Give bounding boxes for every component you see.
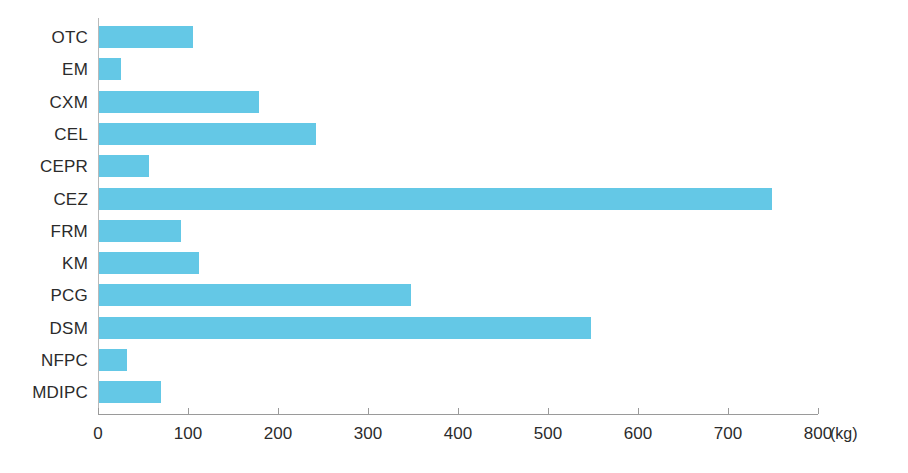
category-label-text: OTC [0,27,88,49]
x-axis-unit-label: (kg) [830,424,858,444]
x-tick-200 [278,408,279,414]
bar-cepr [99,155,149,177]
bar-nfpc [99,349,127,371]
x-tick-label-200: 200 [264,424,292,444]
bar-chart: OTCEMCXMCELCEPRCEZFRMKMPCGDSMNFPCMDIPC01… [0,0,908,473]
bar-cez [99,188,772,210]
x-tick-label-100: 100 [174,424,202,444]
category-label-text: EM [0,59,88,81]
category-label-text: KM [0,253,88,275]
x-tick-100 [188,408,189,414]
category-label-text: NFPC [0,350,88,372]
x-tick-label-300: 300 [354,424,382,444]
x-tick-label-700: 700 [714,424,742,444]
category-label-cxm: CXM [0,92,88,114]
bar-dsm [99,317,591,339]
category-label-cez: CEZ [0,189,88,211]
category-label-text: FRM [0,221,88,243]
category-label-dsm: DSM [0,318,88,340]
category-label-text: DSM [0,318,88,340]
x-tick-label-800: 800 [804,424,832,444]
bar-em [99,58,121,80]
bar-cxm [99,91,259,113]
category-label-text: CEZ [0,189,88,211]
x-tick-label-600: 600 [624,424,652,444]
category-label-text: CXM [0,92,88,114]
category-label-mdipc: MDIPC [0,382,88,404]
x-tick-0 [98,408,99,414]
category-label-em: EM [0,59,88,81]
x-tick-500 [548,408,549,414]
category-label-frm: FRM [0,221,88,243]
category-label-text: CEPR [0,156,88,178]
plot-area: OTCEMCXMCELCEPRCEZFRMKMPCGDSMNFPCMDIPC01… [0,0,908,473]
category-label-km: KM [0,253,88,275]
x-tick-label-500: 500 [534,424,562,444]
x-tick-label-0: 0 [93,424,102,444]
bar-frm [99,220,181,242]
bar-cel [99,123,316,145]
category-label-cepr: CEPR [0,156,88,178]
x-tick-label-400: 400 [444,424,472,444]
category-label-nfpc: NFPC [0,350,88,372]
bar-pcg [99,284,411,306]
category-label-pcg: PCG [0,285,88,307]
x-tick-800 [818,408,819,414]
x-tick-400 [458,408,459,414]
category-label-cel: CEL [0,124,88,146]
category-label-otc: OTC [0,27,88,49]
x-tick-300 [368,408,369,414]
bar-mdipc [99,381,161,403]
x-tick-700 [728,408,729,414]
bar-km [99,252,199,274]
category-label-text: MDIPC [0,382,88,404]
category-label-text: PCG [0,285,88,307]
x-tick-600 [638,408,639,414]
bar-otc [99,26,193,48]
x-axis-line [98,414,818,415]
category-label-text: CEL [0,124,88,146]
